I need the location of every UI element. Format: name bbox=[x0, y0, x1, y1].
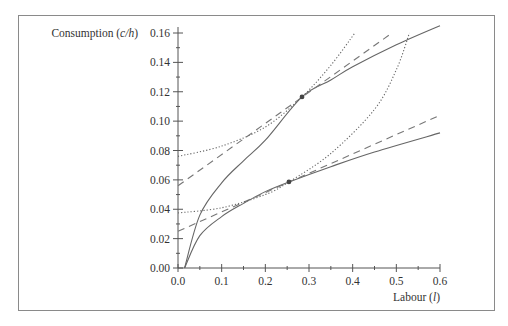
upper-tangent-line-line bbox=[178, 33, 392, 186]
curves bbox=[178, 26, 440, 268]
upper-indifference-curve-line bbox=[178, 33, 355, 156]
x-tick-label: 0.2 bbox=[258, 275, 273, 287]
x-tick-label: 0.5 bbox=[389, 275, 404, 287]
x-axis-title: Labour (l) bbox=[393, 291, 440, 304]
y-tick-label: 0.16 bbox=[150, 27, 170, 39]
upper-budget-curve-line bbox=[185, 26, 440, 268]
upper-optimum-point bbox=[300, 94, 305, 99]
x-tick-label: 0.1 bbox=[214, 275, 229, 287]
x-tick-label: 0.3 bbox=[302, 275, 317, 287]
lower-tangent-line-line bbox=[178, 115, 440, 231]
y-axis-title: Consumption (c/h) bbox=[51, 27, 138, 40]
chart-plot: 0.00.10.20.30.40.50.60.000.020.040.060.0… bbox=[0, 0, 508, 326]
axes: 0.00.10.20.30.40.50.60.000.020.040.060.0… bbox=[150, 27, 448, 287]
x-tick-label: 0.6 bbox=[433, 275, 448, 287]
y-tick-label: 0.06 bbox=[150, 174, 170, 186]
y-tick-label: 0.10 bbox=[150, 115, 170, 127]
y-tick-label: 0.14 bbox=[150, 56, 170, 68]
y-tick-label: 0.04 bbox=[150, 203, 170, 215]
y-tick-label: 0.12 bbox=[150, 86, 170, 98]
y-tick-label: 0.02 bbox=[150, 233, 170, 245]
y-tick-label: 0.08 bbox=[150, 145, 170, 157]
x-tick-label: 0.0 bbox=[171, 275, 186, 287]
lower-budget-curve-line bbox=[185, 133, 440, 268]
x-tick-label: 0.4 bbox=[345, 275, 360, 287]
points bbox=[287, 94, 305, 184]
lower-indifference-curve-line bbox=[178, 33, 409, 213]
lower-optimum-point bbox=[287, 180, 292, 185]
y-tick-label: 0.00 bbox=[150, 262, 170, 274]
